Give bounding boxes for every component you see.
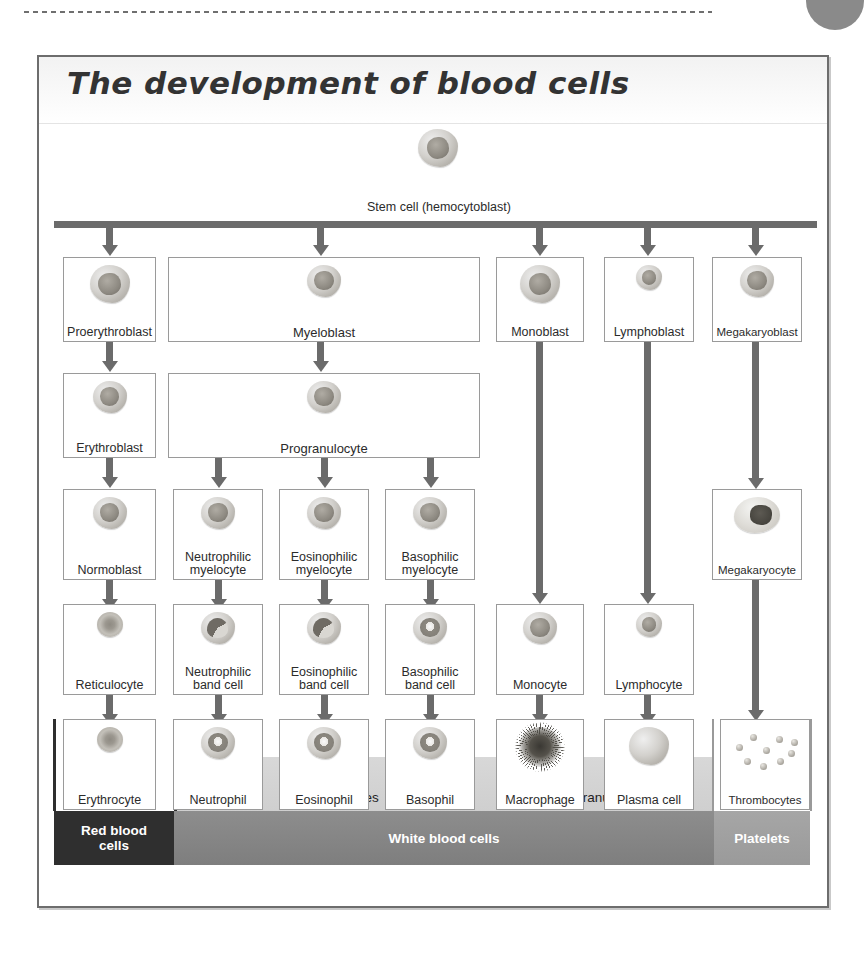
eosinophil-cell-image xyxy=(307,727,341,759)
cell-box-eosinophilic-myelocyte[interactable]: Eosinophilic myelocyte xyxy=(279,489,369,580)
stem-cell-image xyxy=(418,129,458,167)
arrow-to-myeloblast xyxy=(317,228,324,246)
cell-label: Monocyte xyxy=(513,679,567,692)
cell-box-eosinophilic-band-cell[interactable]: Eosinophilic band cell xyxy=(279,604,369,695)
arrow-lymphoblast-to-lymphocyte xyxy=(644,342,651,594)
cell-label: Myeloblast xyxy=(293,326,355,339)
monocyte-cell-image xyxy=(523,612,557,644)
basophilic-myelocyte-cell-image xyxy=(413,497,447,529)
myeloblast-cell-image xyxy=(307,265,341,297)
megakaryoblast-cell-image xyxy=(740,265,774,297)
arrow-to-megakaryoblast xyxy=(752,228,759,246)
cell-label: Reticulocyte xyxy=(75,679,143,692)
cell-label-line2: band cell xyxy=(405,679,455,692)
basophil-cell-image xyxy=(413,727,447,759)
cell-box-erythroblast[interactable]: Erythroblast xyxy=(63,373,156,458)
cell-label: Thrombocytes xyxy=(729,794,802,807)
red-blood-cells-label-line1: Red blood xyxy=(81,823,147,838)
cell-label: Basophil xyxy=(406,794,454,807)
cell-box-basophilic-myelocyte[interactable]: Basophilic myelocyte xyxy=(385,489,475,580)
cell-box-progranulocyte[interactable]: Progranulocyte xyxy=(168,373,480,458)
cell-label-line2: myelocyte xyxy=(190,564,246,577)
arrow-progranulocyte-to-eosinophilic-myelocyte xyxy=(321,458,328,478)
cell-box-monocyte[interactable]: Monocyte xyxy=(496,604,584,695)
cell-box-erythrocyte[interactable]: Erythrocyte xyxy=(63,719,156,810)
cell-box-plasma-cell[interactable]: Plasma cell xyxy=(604,719,694,810)
proerythroblast-cell-image xyxy=(90,265,130,303)
cell-label: Progranulocyte xyxy=(280,442,367,455)
cell-box-basophil[interactable]: Basophil xyxy=(385,719,475,810)
arrow-to-lymphoblast xyxy=(644,228,651,246)
cell-box-proerythroblast[interactable]: Proerythroblast xyxy=(63,257,156,342)
cell-box-normoblast[interactable]: Normoblast xyxy=(63,489,156,580)
arrow-progranulocyte-to-basophilic-myelocyte xyxy=(427,458,434,478)
cell-box-basophilic-band-cell[interactable]: Basophilic band cell xyxy=(385,604,475,695)
arrow-monocyte-to-macrophage xyxy=(536,695,543,715)
arrow-neutrophilic-band-cell-to-neutrophil xyxy=(215,695,222,715)
arrow-megakaryoblast-to-megakaryocyte xyxy=(752,342,759,479)
cell-label: Erythrocyte xyxy=(78,794,141,807)
lymphoblast-cell-image xyxy=(636,265,662,290)
arrow-proerythroblast-to-erythroblast xyxy=(106,342,113,362)
cell-label: Megakaryocyte xyxy=(718,564,796,577)
cell-box-neutrophilic-band-cell[interactable]: Neutrophilic band cell xyxy=(173,604,263,695)
thrombocytes-image xyxy=(730,730,800,776)
erythrocyte-cell-image xyxy=(97,727,123,752)
cell-label: Megakaryoblast xyxy=(716,326,797,339)
cell-label: Neutrophil xyxy=(190,794,247,807)
diagram-canvas: Stem cell (hemocytoblast) Proerythroblas… xyxy=(39,57,827,906)
cell-box-neutrophilic-myelocyte[interactable]: Neutrophilic myelocyte xyxy=(173,489,263,580)
arrow-megakaryocyte-to-thrombocytes xyxy=(752,580,759,711)
neutrophilic-myelocyte-cell-image xyxy=(201,497,235,529)
macrophage-cell-image xyxy=(518,727,562,767)
cell-box-megakaryoblast[interactable]: Megakaryoblast xyxy=(712,257,802,342)
cell-label: Proerythroblast xyxy=(67,326,152,339)
arrow-reticulocyte-to-erythrocyte xyxy=(106,695,113,715)
cell-box-lymphoblast[interactable]: Lymphoblast xyxy=(604,257,694,342)
cell-box-eosinophil[interactable]: Eosinophil xyxy=(279,719,369,810)
lymphocyte-cell-image xyxy=(636,612,662,637)
arrow-eosinophilic-band-cell-to-eosinophil xyxy=(321,695,328,715)
plasma-cell-image xyxy=(629,727,669,765)
cell-label: Lymphocyte xyxy=(616,679,683,692)
cell-label: Normoblast xyxy=(78,564,142,577)
cell-box-macrophage[interactable]: Macrophage xyxy=(496,719,584,810)
cell-box-monoblast[interactable]: Monoblast xyxy=(496,257,584,342)
page-number-circle-icon xyxy=(806,0,864,30)
figure-panel: The development of blood cells Stem cell… xyxy=(37,55,829,908)
reticulocyte-cell-image xyxy=(97,612,123,637)
red-blood-cells-label-line2: cells xyxy=(99,838,129,853)
white-blood-cells-band: White blood cells xyxy=(174,811,714,865)
cell-box-neutrophil[interactable]: Neutrophil xyxy=(173,719,263,810)
neutrophilic-band-cell-image xyxy=(201,612,235,644)
arrow-basophilic-band-cell-to-basophil xyxy=(427,695,434,715)
cell-box-lymphocyte[interactable]: Lymphocyte xyxy=(604,604,694,695)
cell-label: Monoblast xyxy=(511,326,569,339)
eosinophilic-myelocyte-cell-image xyxy=(307,497,341,529)
cell-box-megakaryocyte[interactable]: Megakaryocyte xyxy=(712,489,802,580)
stem-cell-label: Stem cell (hemocytoblast) xyxy=(367,200,511,214)
arrow-lymphocyte-to-plasma-cell xyxy=(644,695,651,715)
cell-box-thrombocytes[interactable]: Thrombocytes xyxy=(720,719,810,810)
platelets-label: Platelets xyxy=(734,831,790,846)
cell-box-myeloblast[interactable]: Myeloblast xyxy=(168,257,480,342)
arrow-to-monoblast xyxy=(536,228,543,246)
progranulocyte-cell-image xyxy=(307,381,341,413)
arrow-neutrophilic-myelocyte-to-band-cell xyxy=(215,580,222,600)
cell-box-reticulocyte[interactable]: Reticulocyte xyxy=(63,604,156,695)
megakaryocyte-cell-image xyxy=(734,497,780,533)
eosinophilic-band-cell-image xyxy=(307,612,341,644)
arrow-basophilic-myelocyte-to-band-cell xyxy=(427,580,434,600)
cell-label: Macrophage xyxy=(505,794,575,807)
arrow-eosinophilic-myelocyte-to-band-cell xyxy=(321,580,328,600)
dotted-rule-icon xyxy=(22,10,712,14)
cell-label: Plasma cell xyxy=(617,794,681,807)
arrow-erythroblast-to-normoblast xyxy=(106,458,113,478)
monoblast-cell-image xyxy=(520,265,560,303)
stem-distribution-bar xyxy=(54,221,817,228)
erythroblast-cell-image xyxy=(93,381,127,413)
cell-label-line2: band cell xyxy=(193,679,243,692)
neutrophil-cell-image xyxy=(201,727,235,759)
cell-label: Erythroblast xyxy=(76,442,143,455)
arrow-progranulocyte-to-neutrophilic-myelocyte xyxy=(215,458,222,478)
